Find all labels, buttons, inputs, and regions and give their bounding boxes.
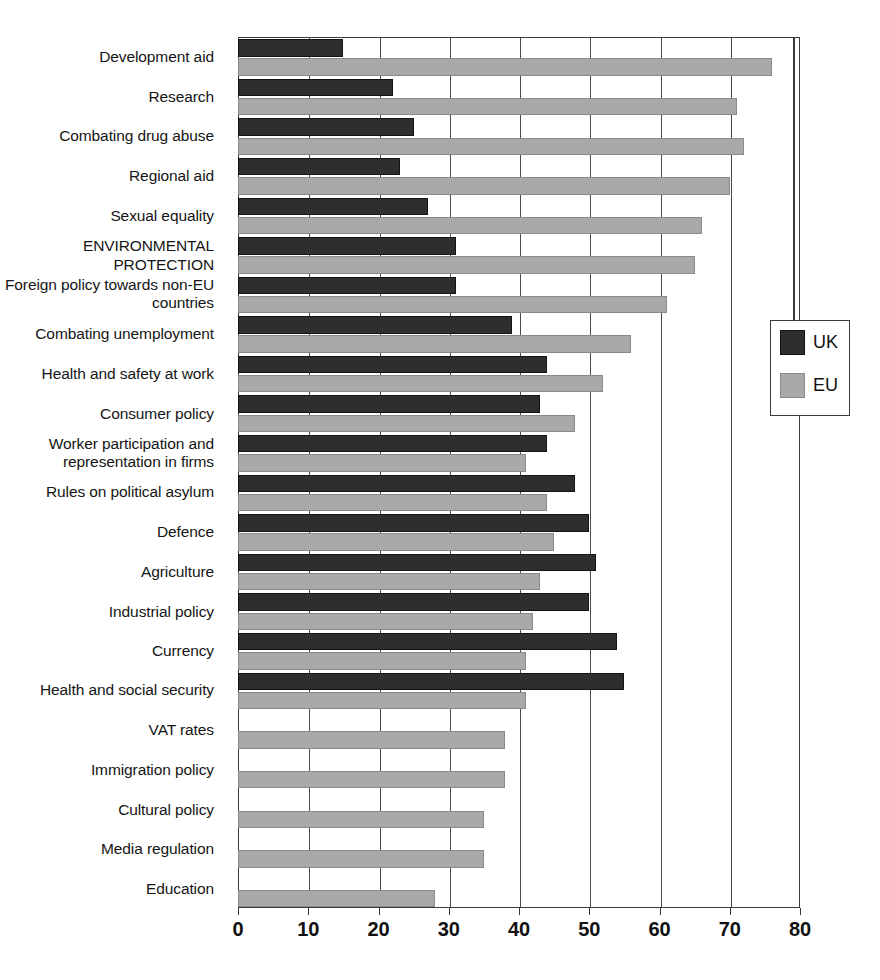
category-row (238, 552, 800, 592)
x-axis-tick (730, 908, 731, 915)
bar-eu[interactable] (238, 771, 505, 788)
chart-root: Development aidResearchCombating drug ab… (0, 0, 880, 980)
bar-eu[interactable] (238, 731, 505, 748)
bar-eu[interactable] (238, 415, 575, 432)
bar-eu[interactable] (238, 454, 526, 471)
category-row (238, 37, 800, 77)
category-row (238, 670, 800, 710)
bar-uk[interactable] (238, 673, 624, 690)
chart-legend: UK EU (770, 320, 850, 416)
bar-eu[interactable] (238, 533, 554, 550)
category-label: Combating drug abuse (0, 126, 228, 145)
legend-swatch-eu-icon (780, 373, 805, 398)
x-axis-tick (519, 908, 520, 915)
legend-label-eu: EU (813, 375, 838, 396)
category-row (238, 750, 800, 790)
bar-uk[interactable] (238, 435, 547, 452)
category-label: Cultural policy (0, 800, 228, 819)
bar-uk[interactable] (238, 79, 393, 96)
bar-uk[interactable] (238, 514, 589, 531)
category-label: Industrial policy (0, 602, 228, 621)
bar-uk[interactable] (238, 316, 512, 333)
legend-item-eu[interactable]: EU (780, 373, 844, 399)
bar-uk[interactable] (238, 593, 589, 610)
category-label: Worker participation and representation … (0, 435, 228, 471)
bar-eu[interactable] (238, 256, 695, 273)
legend-item-uk[interactable]: UK (780, 330, 844, 356)
category-row (238, 512, 800, 552)
bar-uk[interactable] (238, 633, 617, 650)
bar-uk[interactable] (238, 475, 575, 492)
x-tick-label: 20 (349, 918, 409, 941)
category-row (238, 77, 800, 117)
bar-eu[interactable] (238, 217, 702, 234)
category-row (238, 195, 800, 235)
x-axis-tick-labels: 01020304050607080 (238, 918, 800, 952)
x-tick-label: 50 (559, 918, 619, 941)
bar-eu[interactable] (238, 335, 631, 352)
bar-eu[interactable] (238, 613, 533, 630)
bar-eu[interactable] (238, 692, 526, 709)
category-label: Health and safety at work (0, 365, 228, 383)
x-tick-label: 70 (700, 918, 760, 941)
bar-uk[interactable] (238, 158, 400, 175)
legend-label-uk: UK (813, 332, 838, 353)
x-axis-tick (589, 908, 590, 915)
category-label: Sexual equality (0, 206, 228, 225)
category-label: Currency (0, 641, 228, 660)
bar-uk[interactable] (238, 277, 456, 294)
category-row (238, 275, 800, 315)
bar-uk[interactable] (238, 395, 540, 412)
category-label: Education (0, 879, 228, 898)
category-row (238, 473, 800, 513)
bar-eu[interactable] (238, 296, 667, 313)
x-tick-label: 80 (770, 918, 830, 941)
x-tick-label: 30 (419, 918, 479, 941)
bar-eu[interactable] (238, 177, 730, 194)
x-axis-tick (379, 908, 380, 915)
category-label: Research (0, 87, 228, 106)
category-row (238, 393, 800, 433)
category-row (238, 789, 800, 829)
bar-eu[interactable] (238, 375, 603, 392)
category-label: Immigration policy (0, 760, 228, 779)
category-row (238, 156, 800, 196)
category-row (238, 591, 800, 631)
category-row (238, 631, 800, 671)
bar-uk[interactable] (238, 198, 428, 215)
category-label: Foreign policy towards non-EU countries (0, 276, 228, 312)
bar-eu[interactable] (238, 58, 772, 75)
x-tick-label: 60 (630, 918, 690, 941)
x-tick-label: 0 (208, 918, 268, 941)
x-axis-tick (800, 908, 801, 915)
category-row (238, 433, 800, 473)
x-axis-tick (660, 908, 661, 915)
category-axis-labels: Development aidResearchCombating drug ab… (0, 37, 228, 908)
category-row (238, 710, 800, 750)
bar-uk[interactable] (238, 237, 456, 254)
bar-eu[interactable] (238, 850, 484, 867)
x-axis-tick (238, 908, 239, 915)
category-label: Rules on political asylum (0, 483, 228, 501)
bar-uk[interactable] (238, 356, 547, 373)
category-row (238, 829, 800, 869)
x-tick-label: 10 (278, 918, 338, 941)
category-row (238, 868, 800, 908)
category-label: VAT rates (0, 720, 228, 739)
category-label: Regional aid (0, 166, 228, 185)
legend-swatch-uk-icon (780, 330, 805, 355)
bar-eu[interactable] (238, 138, 744, 155)
bar-eu[interactable] (238, 890, 435, 907)
bar-eu[interactable] (238, 98, 737, 115)
x-tick-label: 40 (489, 918, 549, 941)
bar-eu[interactable] (238, 652, 526, 669)
bar-eu[interactable] (238, 811, 484, 828)
bar-eu[interactable] (238, 494, 547, 511)
category-row (238, 314, 800, 354)
bar-uk[interactable] (238, 554, 596, 571)
bar-eu[interactable] (238, 573, 540, 590)
bar-rows-layer (238, 37, 800, 908)
category-label: Consumer policy (0, 404, 228, 423)
bar-uk[interactable] (238, 39, 343, 56)
bar-uk[interactable] (238, 118, 414, 135)
